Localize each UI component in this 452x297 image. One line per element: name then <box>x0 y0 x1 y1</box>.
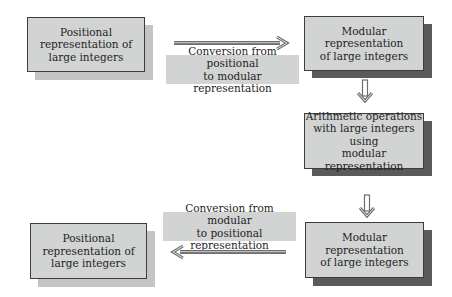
box-label: Positional representation of large integ… <box>42 232 134 270</box>
box-modular-representation-bottom: Modular representation of large integers <box>305 222 424 278</box>
box-label: Modular representation of large integers <box>305 25 423 63</box>
arrow-down-icon <box>359 195 375 219</box>
box-positional-representation: Positional representation of large integ… <box>27 17 145 72</box>
box-modular-representation: Modular representation of large integers <box>304 16 424 71</box>
edge-label-positional-to-modular: Conversion from positional to modular re… <box>166 55 299 84</box>
box-label: Arithmetic operations with large integer… <box>305 110 423 173</box>
box-arithmetic-operations: Arithmetic operations with large integer… <box>304 113 424 169</box>
box-label: Modular representation of large integers <box>306 231 423 269</box>
box-positional-representation-bottom: Positional representation of large integ… <box>30 223 147 279</box>
arrow-down-icon <box>357 80 373 104</box>
arrow-left-icon <box>170 245 288 259</box>
box-label: Positional representation of large integ… <box>40 26 132 64</box>
edge-label-modular-to-positional: Conversion from modular to positional re… <box>163 212 296 241</box>
